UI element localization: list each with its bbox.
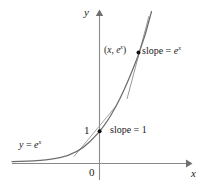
slope-label-one: slope = 1 [110, 125, 147, 135]
slope-label-e-to-x: slope = ex [142, 45, 181, 56]
plot-canvas [0, 0, 205, 194]
point-label-paren-close: ) [123, 45, 126, 55]
y-axis [96, 10, 103, 181]
x-axis-label: x [191, 168, 196, 179]
slope-ex-text: slope = [142, 45, 174, 56]
origin-label: 0 [89, 167, 95, 178]
y-axis-label: y [84, 7, 89, 18]
slope-ex-exponent: x [178, 44, 181, 51]
point-marker-x-ex [137, 51, 141, 55]
exponential-function-figure: y x 0 1 (x, ex) slope = ex slope = 1 y =… [0, 0, 205, 194]
point-label-x-ex: (x, ex) [104, 45, 126, 56]
curve-label-equals: = [23, 139, 34, 150]
curve-label-y-equals-e-to-x: y = ex [19, 139, 41, 150]
y-axis-tick-label-one: 1 [84, 125, 90, 136]
curve-label-exponent: x [39, 138, 42, 145]
y-axis-arrowhead [96, 10, 103, 17]
point-marker-zero-one [98, 129, 102, 133]
